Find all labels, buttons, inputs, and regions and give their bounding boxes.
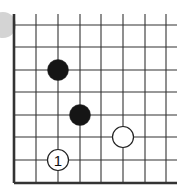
board-grid (14, 14, 177, 183)
go-board: 1 (0, 0, 190, 196)
black-stone (48, 60, 69, 81)
black-stone (70, 105, 91, 126)
white-stone (113, 127, 134, 148)
stone-move-number: 1 (54, 152, 62, 169)
